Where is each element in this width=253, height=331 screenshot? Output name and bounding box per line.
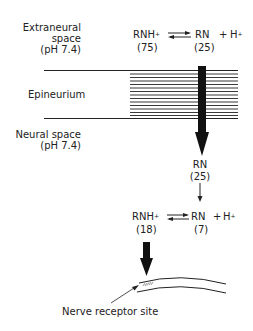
top-rnh-species: RNH+ bbox=[133, 29, 160, 40]
neural-line1: Neural space bbox=[15, 129, 81, 140]
top-rnh-value: (75) bbox=[137, 42, 158, 53]
bottom-rn-species: RN bbox=[191, 211, 205, 222]
bottom-proton-charge: + bbox=[231, 212, 236, 219]
extraneural-line2: space bbox=[23, 33, 81, 44]
top-plus: + bbox=[219, 29, 227, 40]
nerve-membrane-inner bbox=[137, 287, 226, 293]
bottom-rn-value: (7) bbox=[194, 224, 208, 235]
top-rn-value: (25) bbox=[194, 42, 215, 53]
equilibrium-arrows-bottom-icon bbox=[167, 213, 189, 221]
small-down-arrow-icon bbox=[198, 183, 203, 202]
bottom-plus: + bbox=[213, 211, 221, 222]
diffused-rn-species: RN bbox=[190, 159, 210, 170]
extraneural-line3: (pH 7.4) bbox=[23, 44, 81, 55]
bottom-proton-text: H bbox=[223, 211, 231, 222]
bottom-rnh-charge: + bbox=[154, 212, 159, 219]
bottom-rnh-value: (18) bbox=[136, 224, 157, 235]
bottom-rnh-text: RNH bbox=[132, 211, 154, 222]
bottom-proton: H+ bbox=[223, 211, 236, 222]
extraneural-line1: Extraneural bbox=[23, 22, 81, 33]
top-rn-species: RN bbox=[195, 29, 209, 40]
receptor-binding-arrow-icon bbox=[140, 242, 153, 276]
top-rnh-text: RNH bbox=[133, 29, 155, 40]
receptor-pointer-icon bbox=[111, 285, 139, 303]
epineurium-hatching bbox=[130, 74, 238, 116]
top-rnh-charge: + bbox=[155, 30, 160, 37]
top-proton-text: H bbox=[230, 29, 238, 40]
equilibrium-arrows-top-icon bbox=[168, 31, 191, 39]
nerve-receptor-site-label: Nerve receptor site bbox=[62, 306, 158, 317]
diffusion-arrow-icon bbox=[195, 66, 209, 156]
neural-line2: (pH 7.4) bbox=[15, 140, 81, 151]
extraneural-space-label: Extraneural space (pH 7.4) bbox=[23, 22, 81, 55]
bottom-rnh-species: RNH+ bbox=[132, 211, 159, 222]
top-proton-charge: + bbox=[238, 30, 243, 37]
neural-space-label: Neural space (pH 7.4) bbox=[15, 129, 81, 151]
top-proton: H+ bbox=[230, 29, 243, 40]
diffused-rn-value: (25) bbox=[187, 171, 213, 182]
epineurium-label: Epineurium bbox=[28, 89, 85, 100]
receptor-site-hatch bbox=[143, 282, 153, 286]
